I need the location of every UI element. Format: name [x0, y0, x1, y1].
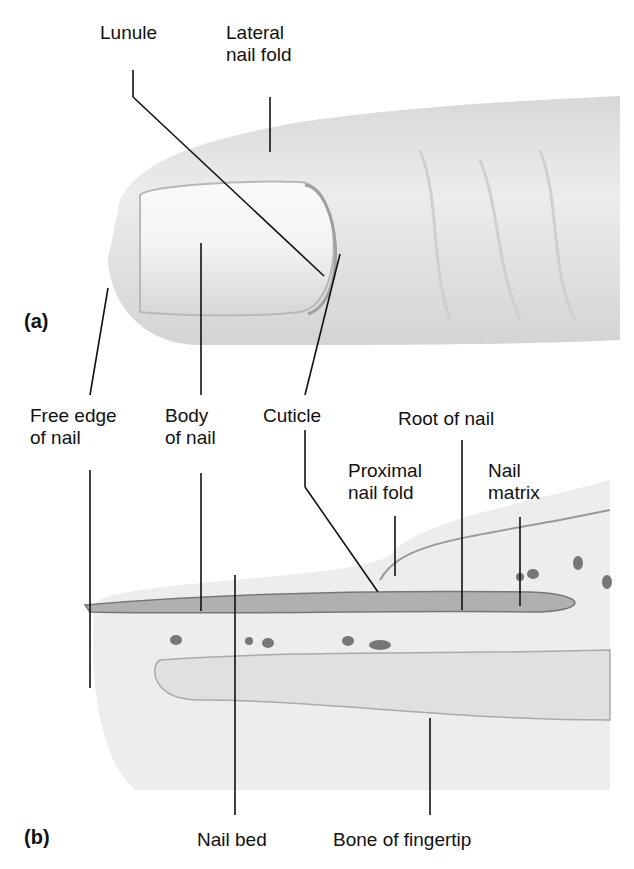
label-lateral-nail-fold: Lateral nail fold [226, 22, 292, 66]
label-nail-bed: Nail bed [197, 829, 267, 851]
nail-cross-section [85, 480, 612, 790]
panel-b-label: (b) [24, 826, 50, 849]
label-lunule: Lunule [100, 22, 157, 44]
panel-a-label: (a) [24, 310, 48, 333]
label-proximal-nail-fold: Proximal nail fold [348, 460, 422, 504]
finger-external-view [108, 96, 620, 345]
label-root-of-nail: Root of nail [398, 408, 494, 430]
label-cuticle: Cuticle [263, 405, 321, 427]
label-free-edge-of-nail: Free edge of nail [30, 405, 117, 449]
label-body-of-nail: Body of nail [165, 405, 216, 449]
label-nail-matrix: Nail matrix [488, 460, 540, 504]
label-bone-of-fingertip: Bone of fingertip [333, 829, 471, 851]
